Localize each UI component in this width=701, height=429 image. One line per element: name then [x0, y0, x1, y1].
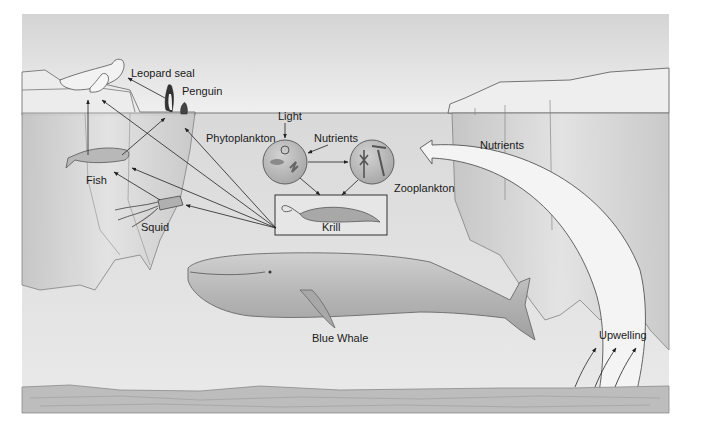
- label-squid: Squid: [141, 222, 169, 233]
- label-penguin: Penguin: [182, 86, 222, 97]
- label-nutrients-top: Nutrients: [314, 133, 358, 144]
- label-leopard-seal: Leopard seal: [131, 68, 195, 79]
- label-krill: Krill: [322, 222, 340, 233]
- phytoplankton-organism-2: [270, 159, 284, 165]
- label-light: Light: [278, 111, 302, 122]
- label-zooplankton: Zooplankton: [394, 183, 455, 194]
- label-upwelling: Upwelling: [599, 330, 647, 341]
- phytoplankton-circle: [263, 140, 307, 184]
- whale-eye: [269, 271, 272, 274]
- label-blue-whale: Blue Whale: [312, 333, 368, 344]
- label-fish: Fish: [86, 175, 107, 186]
- label-nutrients-right: Nutrients: [480, 140, 524, 151]
- label-phytoplankton: Phytoplankton: [206, 133, 276, 144]
- food-web-diagram: [0, 0, 701, 429]
